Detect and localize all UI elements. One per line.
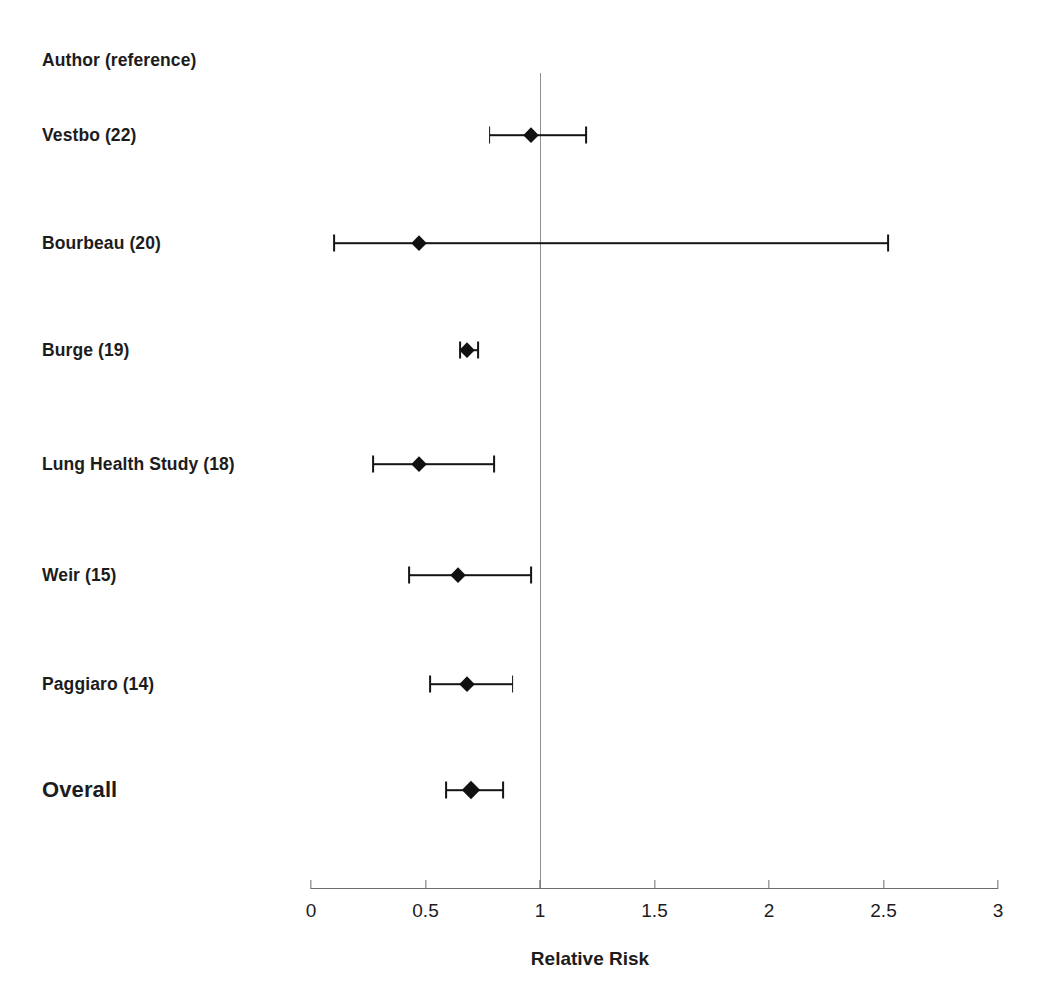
x-axis-tick-label-0.5: 0.5 xyxy=(412,900,438,922)
ci-cap-lower xyxy=(429,676,431,693)
x-axis-tick-0 xyxy=(310,880,311,889)
point-estimate-marker xyxy=(523,127,538,142)
x-axis-tick-label-0: 0 xyxy=(306,900,317,922)
ci-cap-lower xyxy=(333,235,335,252)
x-axis-tick-label-3: 3 xyxy=(993,900,1004,922)
point-estimate-marker xyxy=(411,235,426,250)
summary-effect-marker xyxy=(462,781,480,799)
x-axis-tick-2.5 xyxy=(883,880,884,889)
forest-plot-figure: Author (reference) Vestbo (22)Bourbeau (… xyxy=(0,0,1042,1005)
ci-cap-upper xyxy=(585,127,587,144)
point-estimate-marker xyxy=(450,567,465,582)
x-axis-tick-0.5 xyxy=(425,880,426,889)
x-axis-tick-1.5 xyxy=(654,880,655,889)
ci-cap-lower xyxy=(372,456,374,473)
ci-cap-upper xyxy=(530,567,532,584)
x-axis-tick-3 xyxy=(997,880,998,889)
x-axis-title: Relative Risk xyxy=(531,948,649,970)
confidence-interval-line xyxy=(409,574,530,576)
point-estimate-marker xyxy=(411,456,426,471)
plot-area xyxy=(0,0,1042,1005)
x-axis-tick-label-2: 2 xyxy=(764,900,775,922)
point-estimate-marker xyxy=(459,676,474,691)
confidence-interval-line xyxy=(373,463,494,465)
ci-cap-upper xyxy=(493,456,495,473)
ci-cap-upper xyxy=(887,235,889,252)
ci-cap-lower xyxy=(445,782,447,799)
x-axis-tick-label-1.5: 1.5 xyxy=(641,900,667,922)
x-axis-tick-2 xyxy=(768,880,769,889)
point-estimate-marker xyxy=(459,342,474,357)
x-axis-tick-label-2.5: 2.5 xyxy=(870,900,896,922)
null-reference-line xyxy=(540,73,541,888)
ci-cap-lower xyxy=(489,127,491,144)
ci-cap-upper xyxy=(477,342,479,359)
ci-cap-upper xyxy=(512,676,514,693)
ci-cap-lower xyxy=(409,567,411,584)
ci-cap-upper xyxy=(502,782,504,799)
x-axis-tick-label-1: 1 xyxy=(535,900,546,922)
x-axis-tick-1 xyxy=(539,880,540,889)
